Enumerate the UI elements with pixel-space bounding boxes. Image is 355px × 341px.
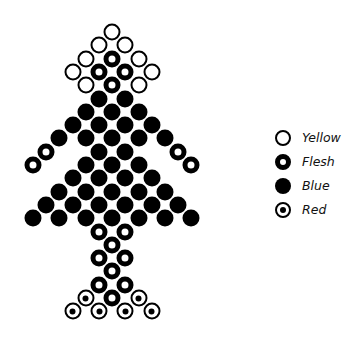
blue-bead-icon xyxy=(91,143,108,160)
blue-bead-icon xyxy=(130,210,147,227)
legend-label-yellow: Yellow xyxy=(302,130,341,146)
blue-bead-icon xyxy=(25,210,42,227)
yellow-bead-icon xyxy=(91,37,108,54)
blue-bead-icon xyxy=(143,117,160,134)
flesh-bead-icon xyxy=(91,223,108,240)
flesh-bead-icon xyxy=(104,50,121,67)
blue-bead-icon xyxy=(183,210,200,227)
blue-bead-icon xyxy=(77,103,94,120)
blue-bead-icon xyxy=(64,196,81,213)
red-bead-icon xyxy=(275,202,291,218)
blue-bead-icon xyxy=(51,183,68,200)
blue-bead-icon xyxy=(143,170,160,187)
red-bead-icon xyxy=(77,290,94,307)
legend-item-blue: Blue xyxy=(275,176,355,196)
flesh-bead-icon xyxy=(104,290,121,307)
flesh-bead-icon xyxy=(117,223,134,240)
yellow-bead-icon xyxy=(77,50,94,67)
blue-bead-icon xyxy=(157,130,174,147)
blue-bead-icon xyxy=(117,170,134,187)
blue-bead-icon xyxy=(77,130,94,147)
flesh-bead-icon xyxy=(170,143,187,160)
legend-label-red: Red xyxy=(302,202,326,218)
blue-bead-icon xyxy=(117,117,134,134)
red-bead-icon xyxy=(117,303,134,320)
flesh-bead-icon xyxy=(25,157,42,174)
blue-bead-icon xyxy=(38,196,55,213)
flesh-bead-icon xyxy=(104,263,121,280)
blue-bead-icon xyxy=(130,130,147,147)
flesh-bead-icon xyxy=(91,63,108,80)
red-bead-icon xyxy=(91,303,108,320)
legend-item-yellow: Yellow xyxy=(275,128,355,148)
blue-bead-icon xyxy=(130,157,147,174)
blue-bead-icon xyxy=(104,103,121,120)
flesh-bead-icon xyxy=(117,63,134,80)
blue-bead-icon xyxy=(77,210,94,227)
blue-bead-icon xyxy=(77,157,94,174)
blue-bead-icon xyxy=(157,210,174,227)
blue-bead-icon xyxy=(51,130,68,147)
flesh-bead-icon xyxy=(104,77,121,94)
blue-bead-icon xyxy=(104,183,121,200)
blue-bead-icon xyxy=(91,170,108,187)
flesh-bead-icon xyxy=(275,154,291,170)
blue-bead-icon xyxy=(157,183,174,200)
blue-bead-icon xyxy=(275,178,291,194)
yellow-bead-icon xyxy=(143,63,160,80)
flesh-bead-icon xyxy=(91,276,108,293)
blue-bead-icon xyxy=(104,210,121,227)
blue-bead-icon xyxy=(143,196,160,213)
blue-bead-icon xyxy=(91,117,108,134)
flesh-bead-icon xyxy=(117,250,134,267)
legend-label-flesh: Flesh xyxy=(302,154,335,170)
legend-item-flesh: Flesh xyxy=(275,152,355,172)
red-bead-icon xyxy=(143,303,160,320)
flesh-bead-icon xyxy=(91,250,108,267)
blue-bead-icon xyxy=(130,183,147,200)
flesh-bead-icon xyxy=(38,143,55,160)
yellow-bead-icon xyxy=(130,50,147,67)
yellow-bead-icon xyxy=(117,37,134,54)
yellow-bead-icon xyxy=(130,77,147,94)
yellow-bead-icon xyxy=(64,63,81,80)
flesh-bead-icon xyxy=(117,276,134,293)
blue-bead-icon xyxy=(104,157,121,174)
flesh-bead-icon xyxy=(104,236,121,253)
blue-bead-icon xyxy=(64,170,81,187)
blue-bead-icon xyxy=(91,196,108,213)
bead-pattern xyxy=(0,0,230,341)
blue-bead-icon xyxy=(117,143,134,160)
red-bead-icon xyxy=(130,290,147,307)
blue-bead-icon xyxy=(64,117,81,134)
blue-bead-icon xyxy=(91,90,108,107)
blue-bead-icon xyxy=(117,196,134,213)
yellow-bead-icon xyxy=(77,77,94,94)
red-bead-icon xyxy=(64,303,81,320)
blue-bead-icon xyxy=(104,130,121,147)
yellow-bead-icon xyxy=(275,130,291,146)
legend-label-blue: Blue xyxy=(302,178,330,194)
blue-bead-icon xyxy=(51,210,68,227)
blue-bead-icon xyxy=(77,183,94,200)
blue-bead-icon xyxy=(117,90,134,107)
yellow-bead-icon xyxy=(104,24,121,41)
legend-item-red: Red xyxy=(275,200,355,220)
blue-bead-icon xyxy=(130,103,147,120)
flesh-bead-icon xyxy=(183,157,200,174)
blue-bead-icon xyxy=(170,196,187,213)
